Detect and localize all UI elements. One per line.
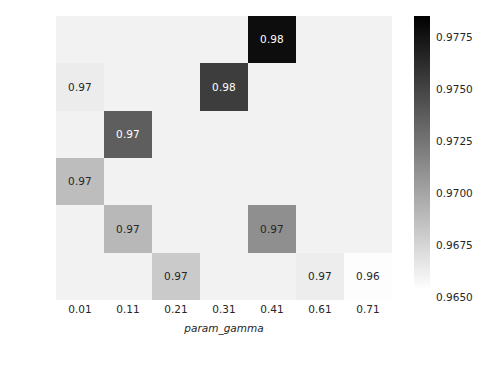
heatmap-cell: 0.96 <box>344 253 392 300</box>
heatmap-cell <box>200 16 248 63</box>
heatmap-cell <box>344 111 392 158</box>
heatmap-cell: 0.97 <box>104 111 152 158</box>
heatmap-cell: 0.97 <box>104 205 152 252</box>
heatmap-cell <box>56 205 104 252</box>
heatmap-cell <box>344 63 392 110</box>
x-tick-label: 0.61 <box>296 303 344 315</box>
heatmap-cell-value: 0.97 <box>164 271 188 282</box>
heatmap-cell: 0.98 <box>248 16 296 63</box>
heatmap-cell <box>296 158 344 205</box>
heatmap-cell <box>104 16 152 63</box>
colorbar-tick-label: 0.9775 <box>436 31 486 43</box>
x-tick-label: 0.71 <box>344 303 392 315</box>
colorbar <box>414 16 430 290</box>
heatmap-cell <box>152 205 200 252</box>
heatmap-cell-value: 0.97 <box>68 176 92 187</box>
heatmap-grid: 0.980.970.980.970.970.970.970.970.970.96 <box>56 16 392 300</box>
heatmap-cell: 0.97 <box>152 253 200 300</box>
x-tick-label: 0.31 <box>200 303 248 315</box>
heatmap-cell <box>344 158 392 205</box>
heatmap-cell <box>152 63 200 110</box>
heatmap-cell <box>248 111 296 158</box>
heatmap-cell: 0.98 <box>200 63 248 110</box>
heatmap-cell <box>200 111 248 158</box>
x-tick-label: 0.11 <box>104 303 152 315</box>
heatmap-cell <box>200 205 248 252</box>
heatmap-cell <box>296 63 344 110</box>
heatmap-cell <box>104 253 152 300</box>
heatmap-cell <box>296 205 344 252</box>
heatmap-cell-value: 0.97 <box>260 224 284 235</box>
heatmap-plot-area: 0.980.970.980.970.970.970.970.970.970.96 <box>56 16 392 300</box>
heatmap-cell <box>248 63 296 110</box>
heatmap-cell <box>56 16 104 63</box>
colorbar-gradient <box>414 16 430 290</box>
heatmap-cell <box>296 111 344 158</box>
colorbar-tick-label: 0.9700 <box>436 187 486 199</box>
heatmap-cell <box>56 253 104 300</box>
heatmap-cell <box>296 16 344 63</box>
heatmap-cell-value: 0.97 <box>308 271 332 282</box>
heatmap-cell <box>152 111 200 158</box>
heatmap-cell-value: 0.97 <box>116 129 140 140</box>
x-axis-label: param_gamma <box>56 322 392 334</box>
colorbar-tick-label: 0.9675 <box>436 239 486 251</box>
heatmap-cell <box>248 158 296 205</box>
x-tick-label: 0.21 <box>152 303 200 315</box>
heatmap-cell <box>344 205 392 252</box>
x-tick-label: 0.01 <box>56 303 104 315</box>
colorbar-tick-label: 0.9750 <box>436 83 486 95</box>
heatmap-cell <box>152 158 200 205</box>
heatmap-cell-value: 0.98 <box>212 82 236 93</box>
heatmap-cell-value: 0.96 <box>356 271 380 282</box>
colorbar-tick-label: 0.9650 <box>436 291 486 303</box>
heatmap-cell <box>200 253 248 300</box>
heatmap-cell <box>344 16 392 63</box>
heatmap-cell <box>152 16 200 63</box>
heatmap-cell-value: 0.97 <box>68 82 92 93</box>
heatmap-cell <box>56 111 104 158</box>
heatmap-cell: 0.97 <box>248 205 296 252</box>
heatmap-cell <box>200 158 248 205</box>
heatmap-cell: 0.97 <box>56 63 104 110</box>
x-tick-label: 0.41 <box>248 303 296 315</box>
heatmap-figure: param_C 10 15 30 35 40 45 0.980.970.980.… <box>0 0 493 369</box>
heatmap-cell <box>104 63 152 110</box>
colorbar-tick-label: 0.9725 <box>436 135 486 147</box>
heatmap-cell <box>104 158 152 205</box>
heatmap-cell <box>248 253 296 300</box>
heatmap-cell: 0.97 <box>56 158 104 205</box>
heatmap-cell-value: 0.98 <box>260 34 284 45</box>
heatmap-cell: 0.97 <box>296 253 344 300</box>
heatmap-cell-value: 0.97 <box>116 224 140 235</box>
